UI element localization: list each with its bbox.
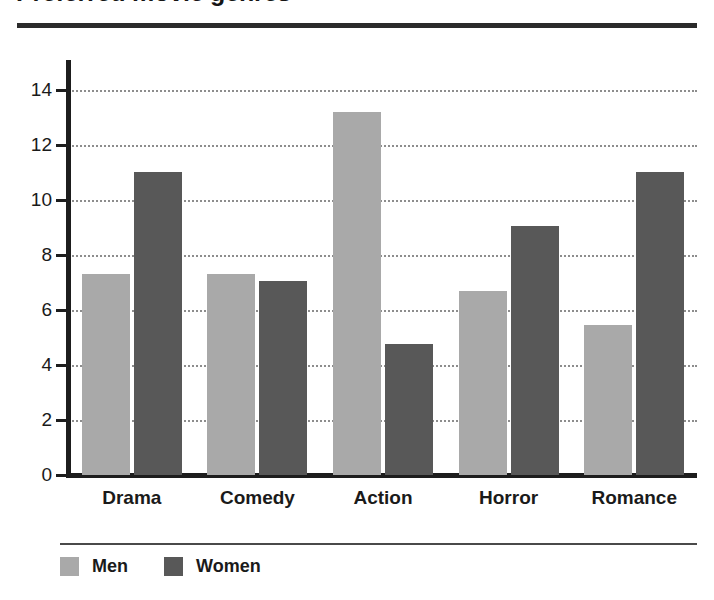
y-axis-tick-mark — [56, 254, 67, 257]
x-axis-label-horror: Horror — [446, 487, 572, 509]
x-axis-label-action: Action — [320, 487, 446, 509]
y-axis-tick-label: 14 — [12, 79, 52, 101]
chart-title: Preferred movie genres — [16, 0, 291, 7]
y-axis-tick-label: 8 — [12, 244, 52, 266]
bar-comedy-men — [207, 274, 255, 475]
x-axis-label-comedy: Comedy — [195, 487, 321, 509]
y-axis-tick-mark — [56, 364, 67, 367]
legend-divider — [60, 543, 697, 545]
legend-swatch-icon — [164, 557, 183, 576]
title-divider — [17, 23, 697, 28]
y-axis-tick-label: 0 — [12, 464, 52, 486]
y-axis-tick-mark — [56, 474, 67, 477]
y-axis-tick-label: 12 — [12, 134, 52, 156]
y-axis-tick-label: 2 — [12, 409, 52, 431]
legend-item-women[interactable]: Women — [164, 556, 261, 577]
y-axis-tick-mark — [56, 419, 67, 422]
gridline — [69, 145, 697, 147]
x-axis-label-drama: Drama — [69, 487, 195, 509]
bar-drama-women — [134, 172, 182, 475]
bar-action-men — [333, 112, 381, 475]
y-axis-tick-mark — [56, 144, 67, 147]
legend-swatch-icon — [60, 557, 79, 576]
legend-item-men[interactable]: Men — [60, 556, 128, 577]
chart-container: Preferred movie genres 02468101214 MenWo… — [0, 0, 714, 600]
bar-romance-men — [584, 325, 632, 475]
bar-action-women — [385, 344, 433, 475]
y-axis-tick-mark — [56, 309, 67, 312]
bar-comedy-women — [259, 281, 307, 475]
bar-romance-women — [636, 172, 684, 475]
bar-horror-women — [511, 226, 559, 475]
y-axis-tick-label: 6 — [12, 299, 52, 321]
legend-label: Women — [196, 556, 261, 577]
y-axis-tick-label: 10 — [12, 189, 52, 211]
chart-legend: MenWomen — [60, 556, 261, 577]
y-axis-tick-label: 4 — [12, 354, 52, 376]
bar-horror-men — [459, 291, 507, 475]
x-axis-label-romance: Romance — [571, 487, 697, 509]
y-axis-tick-labels: 02468101214 — [0, 0, 52, 600]
y-axis-tick-mark — [56, 89, 67, 92]
y-axis-tick-mark — [56, 199, 67, 202]
legend-label: Men — [92, 556, 128, 577]
bar-drama-men — [82, 274, 130, 475]
gridline — [69, 90, 697, 92]
y-axis-line — [66, 60, 71, 477]
